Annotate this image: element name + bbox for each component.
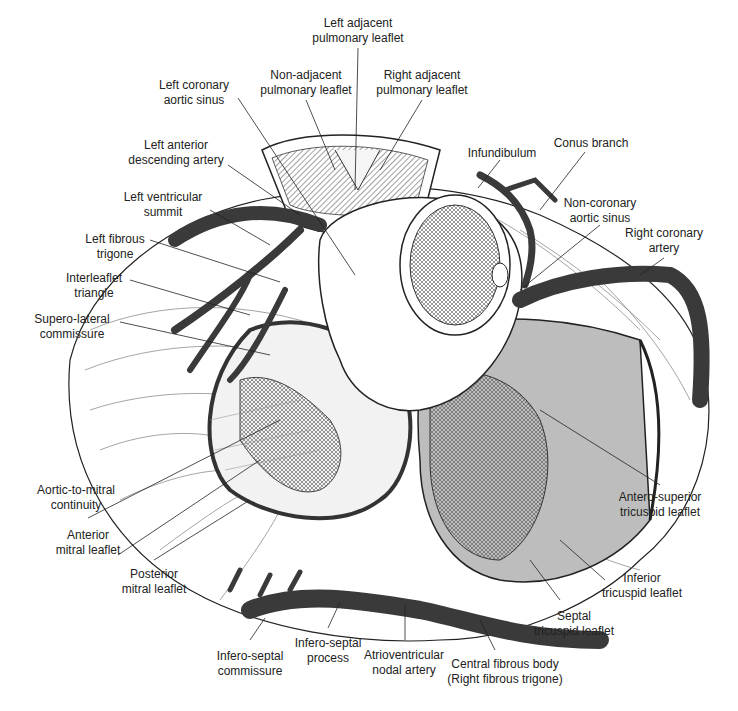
label-posterior-mitral-leaflet: Posterior mitral leaflet bbox=[122, 567, 187, 597]
label-infero-septal-process: Infero-septal process bbox=[295, 636, 362, 666]
label-atrioventricular-nodal-artery: Atrioventricular nodal artery bbox=[364, 648, 444, 678]
label-left-adjacent-pulmonary-leaflet: Left adjacent pulmonary leaflet bbox=[312, 16, 403, 46]
label-left-ventricular-summit: Left ventricular summit bbox=[124, 190, 203, 220]
label-right-adjacent-pulmonary-leaflet: Right adjacent pulmonary leaflet bbox=[376, 68, 467, 98]
label-non-coronary-aortic-sinus: Non-coronary aortic sinus bbox=[564, 196, 637, 226]
label-antero-superior-tricuspid-leaflet: Antero-superior tricuspid leaflet bbox=[619, 490, 702, 520]
label-conus-branch: Conus branch bbox=[554, 136, 629, 151]
label-left-anterior-descending-artery: Left anterior descending artery bbox=[128, 138, 223, 168]
label-septal-tricuspid-leaflet: Septal tricuspid leaflet bbox=[534, 609, 614, 639]
heart-valve-diagram bbox=[0, 0, 738, 711]
label-supero-lateral-commissure: Supero-lateral commissure bbox=[34, 312, 109, 342]
label-interleaflet-triangle: Interleaflet triangle bbox=[66, 271, 122, 301]
label-non-adjacent-pulmonary-leaflet: Non-adjacent pulmonary leaflet bbox=[260, 68, 351, 98]
label-left-fibrous-trigone: Left fibrous trigone bbox=[85, 232, 144, 262]
label-anterior-mitral-leaflet: Anterior mitral leaflet bbox=[56, 528, 121, 558]
label-central-fibrous-body: Central fibrous body (Right fibrous trig… bbox=[447, 657, 562, 687]
label-aortic-to-mitral-continuity: Aortic-to-mitral continuity bbox=[37, 483, 115, 513]
label-infero-septal-commissure: Infero-septal commissure bbox=[217, 649, 284, 679]
label-left-coronary-aortic-sinus: Left coronary aortic sinus bbox=[159, 78, 229, 108]
label-inferior-tricuspid-leaflet: Inferior tricuspid leaflet bbox=[602, 571, 682, 601]
label-infundibulum: Infundibulum bbox=[468, 146, 537, 161]
label-right-coronary-artery: Right coronary artery bbox=[625, 226, 703, 256]
